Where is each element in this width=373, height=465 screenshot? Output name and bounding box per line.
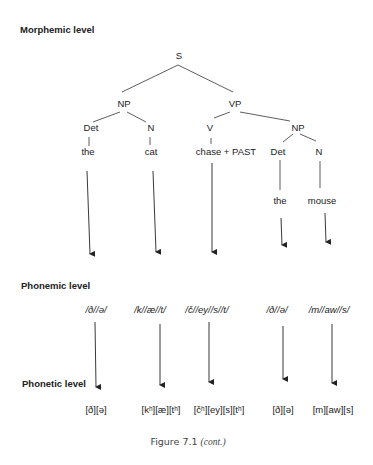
node-np-subject: NP [117, 99, 130, 109]
phonetic-the-subject: [ð][ə] [85, 405, 106, 415]
phonemic-mouse: /m//aw//s/ [309, 305, 350, 315]
word-the-subject: the [81, 147, 94, 157]
phonetic-level-heading: Phonetic level [22, 379, 86, 389]
node-vp: VP [229, 99, 242, 109]
phonetic-mouse: [m][aw][s] [313, 405, 354, 415]
phonemic-chased: /č//ey//s//t/ [185, 305, 228, 315]
tree-and-arrow-lines [0, 0, 373, 465]
node-det-subject: Det [84, 123, 99, 133]
word-the-object: the [273, 196, 286, 206]
node-n-object: N [316, 147, 323, 157]
node-det-object: Det [271, 147, 286, 157]
phonemic-the-object: /ð//ə/ [266, 305, 287, 315]
node-np-object: NP [291, 123, 304, 133]
word-chase-past: chase + PAST [196, 147, 256, 157]
word-cat: cat [145, 147, 158, 157]
word-mouse: mouse [308, 196, 337, 206]
phonetic-chased: [čʰ][ey][s][tʰ] [194, 405, 245, 415]
phonetic-the-object: [ð][ə] [272, 405, 293, 415]
phonetic-cat: [kʰ][æ][tʰ] [142, 405, 181, 415]
caption-label: Figure 7.1 [150, 436, 197, 447]
phonemic-the-subject: /ð//ə/ [85, 305, 106, 315]
node-s: S [176, 51, 182, 61]
caption-note: (cont.) [201, 437, 226, 447]
phonemic-level-heading: Phonemic level [21, 281, 90, 291]
figure-caption: Figure 7.1 (cont.) [150, 436, 225, 447]
node-v: V [207, 123, 213, 133]
figure-7-1: Morphemic level Phonemic level Phonetic … [0, 0, 373, 465]
morphemic-level-heading: Morphemic level [20, 25, 94, 35]
phonemic-cat: /k//æ//t/ [134, 305, 166, 315]
node-n-subject: N [148, 123, 155, 133]
